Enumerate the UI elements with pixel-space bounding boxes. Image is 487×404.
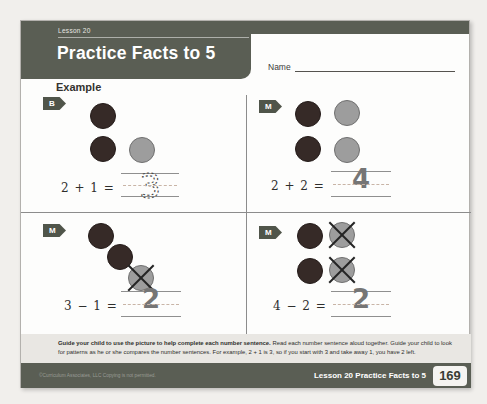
equation-text: 4 − 2 = (273, 299, 327, 313)
equation-text: 2 + 1 = (61, 181, 115, 195)
header-banner: Lesson 20 Practice Facts to 5 (21, 21, 251, 79)
footer-bar: ©Curriculum Associates, LLC Copying is n… (21, 363, 471, 388)
problem-3: M 3 − 1 = 2 (21, 212, 245, 335)
footer-right: Lesson 20 Practice Facts to 5 169 (314, 366, 467, 386)
name-label: Name (268, 62, 295, 72)
counter-dark (90, 103, 116, 129)
traceable-answer: 3 (130, 165, 170, 207)
level-badge: M (43, 224, 66, 237)
problem-4: M 4 − 2 = 2 (247, 212, 471, 335)
counter-gray-crossed-out (329, 257, 355, 283)
counter-dark (295, 101, 321, 127)
handwritten-answer: 2 (331, 284, 391, 315)
level-badge: M (259, 226, 282, 239)
footer-lesson-reference: Lesson 20 Practice Facts to 5 (314, 371, 426, 380)
worksheet-page: Lesson 20 Practice Facts to 5 Name Examp… (20, 20, 470, 388)
counter-gray (334, 100, 360, 126)
counter-dark (297, 223, 323, 249)
equation-text: 3 − 1 = (64, 299, 118, 313)
guide-lead-text: Guide your child to use the picture to h… (58, 340, 271, 346)
svg-text:3: 3 (139, 166, 161, 206)
parent-guide-note: Guide your child to use the picture to h… (21, 334, 471, 363)
counter-gray-crossed-out (329, 222, 355, 248)
counter-gray (129, 137, 155, 163)
writing-lines: 3 (121, 173, 179, 197)
problem-2: M 2 + 2 = 4 (247, 95, 471, 211)
name-field: Name (268, 61, 455, 72)
writing-lines: 4 (331, 171, 391, 197)
name-blank-line (295, 61, 455, 72)
page-number: 169 (433, 366, 467, 386)
lesson-underline (58, 37, 249, 38)
counter-dark (295, 136, 321, 162)
counter-dark (297, 258, 323, 284)
copyright-text: ©Curriculum Associates, LLC Copying is n… (39, 373, 156, 378)
handwritten-answer: 4 (331, 164, 391, 195)
handwritten-answer: 2 (121, 284, 181, 315)
lesson-label: Lesson 20 (58, 27, 91, 34)
problem-1: B 2 + 1 = 3 (21, 95, 245, 211)
example-heading: Example (56, 81, 101, 93)
writing-lines: 2 (331, 291, 391, 317)
level-badge: M (259, 100, 282, 113)
equation-text: 2 + 2 = (271, 179, 325, 193)
counter-dark (88, 223, 114, 249)
counter-gray (334, 137, 360, 163)
counter-dark (90, 136, 116, 162)
writing-lines: 2 (121, 291, 181, 317)
level-badge: B (43, 97, 66, 110)
page-title: Practice Facts to 5 (57, 43, 215, 64)
